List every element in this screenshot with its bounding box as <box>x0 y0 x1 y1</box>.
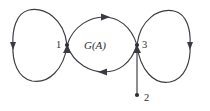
node-dot-1[interactable] <box>65 43 69 47</box>
node-label-2: 2 <box>144 93 149 104</box>
arrowhead-3-to-1-left <box>98 69 107 76</box>
graph-canvas <box>0 0 210 111</box>
node-label-1: 1 <box>56 40 61 51</box>
edge-loop-3-lower <box>137 45 190 82</box>
node-dot-2[interactable] <box>135 93 139 97</box>
arrowhead-1-to-3-right <box>101 14 110 21</box>
node-label-3: 3 <box>142 40 147 51</box>
graph-figure: 1 3 2 G(A) <box>0 0 210 111</box>
graph-center-label: G(A) <box>84 40 106 51</box>
node-dot-3[interactable] <box>135 43 139 47</box>
